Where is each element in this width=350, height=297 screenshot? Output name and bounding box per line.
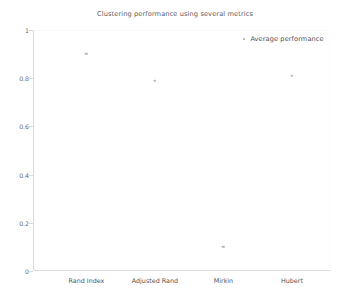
x-axis-tick-label: Adjusted Rand xyxy=(132,277,178,285)
x-axis-tick-label: Rand Index xyxy=(68,277,104,285)
y-axis-tick-mark xyxy=(29,175,33,176)
chart-figure: Clustering performance using several met… xyxy=(0,0,350,297)
x-axis-tick-label: Hubert xyxy=(281,277,303,285)
y-axis-tick-mark xyxy=(29,271,33,272)
y-axis-tick-mark xyxy=(29,126,33,127)
plot-area xyxy=(33,30,331,271)
y-axis-tick-label: 0.4 xyxy=(5,171,29,178)
x-axis-tick-label: Mirkin xyxy=(214,277,233,285)
chart-title: Clustering performance using several met… xyxy=(0,10,350,18)
y-axis-tick-label: 0.8 xyxy=(5,75,29,82)
y-axis-tick-label: 0 xyxy=(5,268,29,275)
y-axis-tick-label: 0.6 xyxy=(5,123,29,130)
chart-legend: Average performance xyxy=(243,35,324,43)
y-axis-tick-mark xyxy=(29,78,33,79)
y-axis-tick-label: 1 xyxy=(5,27,29,34)
legend-marker-icon xyxy=(243,38,245,40)
y-axis-tick-mark xyxy=(29,30,33,31)
y-axis-tick-mark xyxy=(29,223,33,224)
legend-label: Average performance xyxy=(250,35,323,43)
y-axis-tick-label: 0.2 xyxy=(5,219,29,226)
